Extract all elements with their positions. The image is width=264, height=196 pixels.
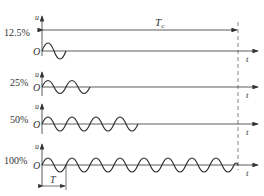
- svg-text:t: t: [246, 168, 249, 178]
- row-label: 50%: [10, 114, 28, 125]
- row-25-percent: u 25% O t: [10, 70, 258, 100]
- axis-u-label: u: [35, 13, 39, 22]
- svg-text:t: t: [246, 90, 249, 100]
- axis-t-label: t: [246, 54, 249, 64]
- svg-text:O: O: [33, 119, 40, 130]
- tc-span-arrow: Tc: [43, 16, 237, 30]
- svg-text:u: u: [35, 70, 39, 79]
- row-100-percent: u 100% O t T: [4, 142, 258, 190]
- row-50-percent: u 50% O t: [10, 102, 258, 137]
- row-label: 12.5%: [4, 27, 30, 38]
- row-label: 100%: [4, 155, 27, 166]
- svg-text:O: O: [33, 160, 40, 171]
- svg-text:t: t: [246, 127, 249, 137]
- duty-cycle-diagram: Tc u 12.5% O t u 25% O t u 50% O t u 100…: [0, 0, 264, 196]
- period-label: T: [50, 174, 57, 185]
- svg-text:O: O: [33, 82, 40, 93]
- row-label: 25%: [10, 77, 28, 88]
- svg-text:u: u: [35, 142, 39, 151]
- row-12-5-percent: u 12.5% O t: [4, 13, 258, 64]
- svg-text:u: u: [35, 102, 39, 111]
- origin-label: O: [33, 46, 40, 57]
- tc-label: Tc: [155, 16, 164, 30]
